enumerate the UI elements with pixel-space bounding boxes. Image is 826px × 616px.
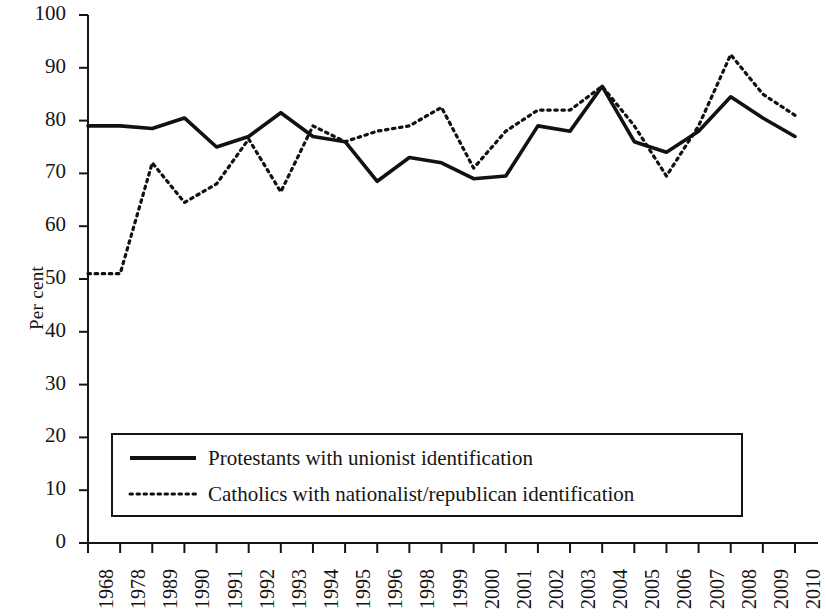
y-tick-label: 90 xyxy=(16,54,66,79)
chart-figure: Per cent 0102030405060708090100 19681978… xyxy=(0,0,826,616)
x-tick-label: 2010 xyxy=(802,569,825,609)
x-tick-label: 1990 xyxy=(191,569,214,609)
y-tick-label: 40 xyxy=(16,318,66,343)
x-tick-label: 2009 xyxy=(770,569,793,609)
y-tick-label: 60 xyxy=(16,212,66,237)
x-tick-marks xyxy=(88,543,795,553)
x-tick-label: 1994 xyxy=(320,569,343,609)
x-tick-label: 2004 xyxy=(609,569,632,609)
y-tick-label: 50 xyxy=(16,265,66,290)
y-tick-label: 80 xyxy=(16,107,66,132)
x-tick-label: 1999 xyxy=(449,569,472,609)
x-tick-label: 1995 xyxy=(352,569,375,609)
x-tick-label: 2002 xyxy=(545,569,568,609)
x-tick-label: 2008 xyxy=(738,569,761,609)
x-tick-label: 1993 xyxy=(288,569,311,609)
x-tick-label: 1989 xyxy=(159,569,182,609)
x-tick-label: 2007 xyxy=(706,569,729,609)
y-tick-label: 30 xyxy=(16,371,66,396)
x-tick-label: 1978 xyxy=(127,569,150,609)
x-tick-label: 1998 xyxy=(416,569,439,609)
x-tick-label: 1996 xyxy=(384,569,407,609)
y-tick-label: 20 xyxy=(16,423,66,448)
x-tick-label: 2001 xyxy=(513,569,536,609)
x-tick-label: 2006 xyxy=(673,569,696,609)
series-layer xyxy=(88,55,795,274)
series-line-protestants xyxy=(88,86,795,181)
x-tick-label: 1968 xyxy=(95,569,118,609)
x-tick-label: 2000 xyxy=(481,569,504,609)
y-tick-label: 100 xyxy=(16,1,66,26)
plot-area xyxy=(0,0,826,616)
x-tick-label: 1991 xyxy=(224,569,247,609)
y-tick-label: 70 xyxy=(16,159,66,184)
legend-label-catholics: Catholics with nationalist/republican id… xyxy=(208,482,634,507)
x-tick-label: 2005 xyxy=(641,569,664,609)
legend-label-protestants: Protestants with unionist identification xyxy=(208,446,533,471)
y-tick-marks xyxy=(79,15,88,543)
y-tick-label: 0 xyxy=(16,529,66,554)
y-tick-label: 10 xyxy=(16,476,66,501)
x-tick-label: 1992 xyxy=(256,569,279,609)
x-tick-label: 2003 xyxy=(577,569,600,609)
